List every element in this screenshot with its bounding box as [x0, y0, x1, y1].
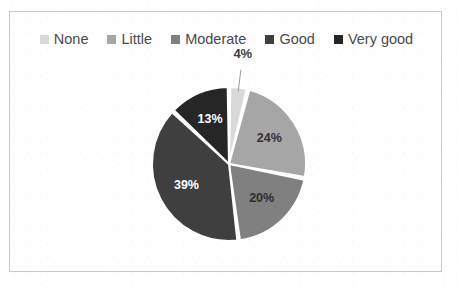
pie-label-moderate: 20%: [249, 191, 274, 205]
pie-chart-area: 4%24%20%39%13%: [10, 12, 443, 273]
pie-label-good: 39%: [174, 178, 199, 192]
pie-label-none: 4%: [233, 46, 252, 61]
pie-label-little: 24%: [257, 131, 282, 145]
pie-slices-group: [152, 87, 306, 241]
chart-frame: None Little Moderate Good Very good 4%24…: [9, 11, 442, 272]
pie-label-very-good: 13%: [198, 112, 223, 126]
pie-chart-svg: 4%24%20%39%13%: [10, 12, 443, 273]
